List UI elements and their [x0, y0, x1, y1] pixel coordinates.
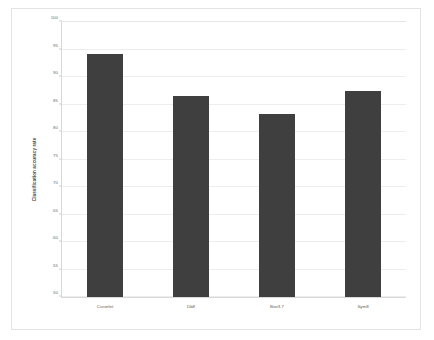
- y-axis-tick-label: 80: [53, 125, 58, 130]
- bar: [87, 54, 123, 297]
- x-axis-tick-label: Curvelet: [97, 304, 113, 309]
- y-axis-tick-label: 50: [53, 290, 58, 295]
- y-axis-tick-label: 100: [51, 15, 58, 20]
- y-axis-tick-label: 85: [53, 97, 58, 102]
- y-axis-tick-label: 55: [53, 262, 58, 267]
- bar-group: Curvelet: [62, 22, 148, 297]
- bar: [173, 96, 209, 297]
- bar-group: Db8: [148, 22, 234, 297]
- chart-figure: Classification accuracy rate 50556065707…: [11, 8, 421, 330]
- bar: [259, 114, 295, 297]
- y-axis-tick-label: 90: [53, 70, 58, 75]
- bar-group: Sym8: [320, 22, 406, 297]
- bar-series: CurveletDb8Bior3.7Sym8: [62, 22, 406, 297]
- bar-group: Bior3.7: [234, 22, 320, 297]
- y-axis-tick-label: 70: [53, 180, 58, 185]
- bar: [345, 91, 381, 297]
- y-axis-tick-label: 75: [53, 152, 58, 157]
- y-axis-title: Classification accuracy rate: [28, 9, 42, 329]
- plot-area: 50556065707580859095100 CurveletDb8Bior3…: [61, 22, 406, 298]
- y-axis-title-text: Classification accuracy rate: [33, 137, 38, 201]
- y-axis-tick-label: 95: [53, 42, 58, 47]
- y-axis-tick-label: 65: [53, 207, 58, 212]
- x-axis-tick-label: Bior3.7: [270, 304, 284, 309]
- y-axis-tick-label: 60: [53, 235, 58, 240]
- x-axis-tick-label: Db8: [187, 304, 195, 309]
- x-axis-tick-label: Sym8: [357, 304, 368, 309]
